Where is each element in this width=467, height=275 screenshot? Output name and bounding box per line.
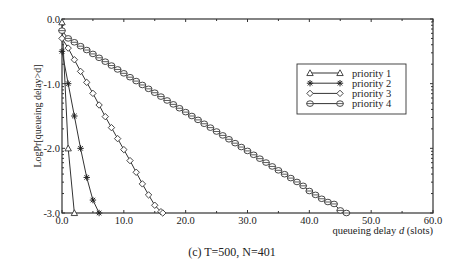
star-marker <box>337 80 343 86</box>
diamond-marker <box>102 113 108 119</box>
star-marker <box>96 210 102 216</box>
y-tick-label: -2.0 <box>43 143 60 154</box>
plot-frame <box>62 19 433 213</box>
y-tick-label: -3.0 <box>43 208 60 219</box>
diamond-marker <box>65 45 71 51</box>
star-marker <box>84 174 90 180</box>
y-axis-label: LogPr[queueing delay>d] <box>32 64 43 167</box>
diamond-marker <box>114 135 120 141</box>
star-marker <box>65 80 71 86</box>
y-tick-label: 0.0 <box>47 14 60 25</box>
diamond-marker <box>121 146 127 152</box>
diamond-marker <box>71 57 77 63</box>
diamond-marker <box>139 181 145 187</box>
triangle-marker <box>65 145 71 151</box>
star-marker <box>71 113 77 119</box>
legend: priority 1priority 2priority 3priority 4 <box>297 64 406 114</box>
diamond-marker <box>96 102 102 108</box>
diamond-marker <box>133 169 139 175</box>
series-priority-4 <box>59 28 350 216</box>
x-axis-label: queueing delay d (slots) <box>332 225 433 237</box>
diamond-marker <box>127 157 133 163</box>
diamond-marker <box>90 90 96 96</box>
star-marker <box>59 48 65 54</box>
star-marker <box>307 80 313 86</box>
diamond-marker <box>84 79 90 85</box>
plot-axes: 0.010.020.030.040.050.060.00.0-1.0-2.0-3… <box>43 14 442 226</box>
x-tick-label: 40.0 <box>300 215 318 226</box>
x-tick-label: 10.0 <box>115 215 133 226</box>
figure-caption: (c) T=500, N=401 <box>188 245 276 259</box>
plot-series <box>59 19 350 216</box>
x-tick-label: 20.0 <box>176 215 194 226</box>
star-marker <box>77 145 83 151</box>
diamond-marker <box>59 35 65 41</box>
chart: 0.010.020.030.040.050.060.00.0-1.0-2.0-3… <box>0 0 467 275</box>
x-tick-label: 30.0 <box>238 215 256 226</box>
star-marker <box>90 197 96 203</box>
series-priority-3 <box>59 35 166 216</box>
diamond-marker <box>145 192 151 198</box>
diamond-marker <box>108 124 114 130</box>
diamond-marker <box>77 68 83 74</box>
legend-label: priority 4 <box>352 98 392 109</box>
y-tick-label: -1.0 <box>43 79 60 90</box>
